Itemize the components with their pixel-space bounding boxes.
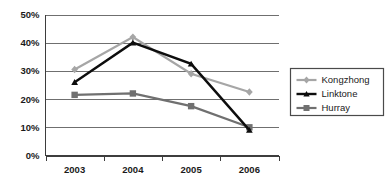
data-point-marker [304,105,310,111]
x-axis-tick-label: 2006 [239,164,260,175]
y-axis-tick-label: 40% [20,37,40,48]
y-axis-tick-label: 0% [26,150,40,161]
axes [46,15,279,157]
line-chart: 0%10%20%30%40%50%2003200420052006Kongzho… [0,0,387,183]
data-point-marker [246,88,253,95]
series-hurray [71,90,252,130]
legend: KongzhongLinktoneHurray [291,69,384,116]
y-axis-tick-label: 20% [20,94,40,105]
gridlines [46,16,279,128]
x-axis-labels: 2003200420052006 [64,164,260,175]
legend-item-label: Linktone [322,88,358,99]
data-point-marker [188,103,194,109]
legend-item-label: Kongzhong [322,74,370,85]
legend-item-label: Hurray [322,102,351,113]
y-axis-tick-label: 10% [20,122,40,133]
series-kongzhong [71,33,252,95]
y-axis-tick-label: 50% [20,9,40,20]
x-axis-tick-label: 2003 [64,164,85,175]
data-point-marker [71,92,77,98]
y-axis-tick-label: 30% [20,65,40,76]
chart-canvas: 0%10%20%30%40%50%2003200420052006Kongzho… [0,0,387,183]
x-axis-tick-label: 2005 [181,164,203,175]
data-point-marker [130,90,136,96]
x-axis-tick-label: 2004 [122,164,144,175]
data-point-marker [71,66,78,73]
y-axis-labels: 0%10%20%30%40%50% [20,9,40,161]
